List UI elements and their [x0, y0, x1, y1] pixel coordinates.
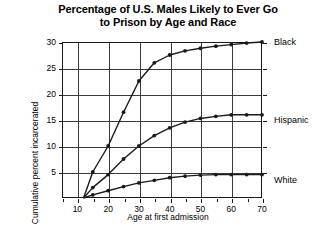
y-tick-right — [263, 173, 267, 174]
x-tick-minor — [63, 199, 64, 202]
y-tick-label: 5 — [51, 168, 56, 177]
x-tick-minor — [155, 199, 156, 202]
x-tick — [201, 199, 202, 203]
y-tick-right — [263, 95, 267, 96]
y-tick-right — [263, 43, 267, 44]
y-tick-right — [263, 147, 267, 148]
gridline-horizontal — [63, 121, 261, 122]
chart-title: Percentage of U.S. Males Likely to Ever … — [0, 3, 336, 29]
y-tick-label: 20 — [47, 90, 56, 99]
x-tick-label: 40 — [158, 205, 182, 214]
y-tick-label: 25 — [47, 64, 56, 73]
y-tick — [59, 95, 63, 96]
y-axis-title-wrap: Cumulative percent incarcerated — [22, 50, 34, 190]
x-tick-minor — [217, 199, 218, 202]
x-tick-minor — [94, 199, 95, 202]
y-tick — [59, 173, 63, 174]
series-label-white: White — [274, 176, 297, 185]
y-tick — [59, 43, 63, 44]
x-tick — [263, 199, 264, 203]
x-tick — [140, 199, 141, 203]
y-tick — [59, 121, 63, 122]
gridline-horizontal — [63, 173, 261, 174]
gridline-horizontal — [63, 95, 261, 96]
y-tick-right — [263, 121, 267, 122]
x-tick-label: 70 — [250, 205, 274, 214]
x-tick-label: 20 — [96, 205, 120, 214]
y-tick-label: 30 — [47, 38, 56, 47]
x-tick-minor — [125, 199, 126, 202]
x-tick — [109, 199, 110, 203]
y-tick-label: 15 — [47, 116, 56, 125]
x-tick — [78, 199, 79, 203]
plot-area — [62, 42, 262, 198]
x-tick-label: 30 — [127, 205, 151, 214]
x-tick-minor — [248, 199, 249, 202]
y-tick — [59, 147, 63, 148]
y-tick-right — [263, 69, 267, 70]
chart-title-line-1: Percentage of U.S. Males Likely to Ever … — [0, 3, 336, 16]
y-axis-title: Cumulative percent incarcerated — [30, 98, 40, 228]
x-tick-label: 60 — [219, 205, 243, 214]
x-tick-label: 50 — [188, 205, 212, 214]
chart-figure: Percentage of U.S. Males Likely to Ever … — [0, 0, 336, 233]
series-label-black: Black — [274, 38, 296, 47]
x-tick-minor — [186, 199, 187, 202]
y-tick-label: 10 — [47, 142, 56, 151]
gridline-horizontal — [63, 147, 261, 148]
series-label-hispanic: Hispanic — [274, 116, 309, 125]
gridline-horizontal — [63, 69, 261, 70]
chart-title-line-2: to Prison by Age and Race — [0, 16, 336, 29]
x-tick-label: 10 — [65, 205, 89, 214]
x-tick — [232, 199, 233, 203]
y-tick — [59, 69, 63, 70]
x-tick — [171, 199, 172, 203]
